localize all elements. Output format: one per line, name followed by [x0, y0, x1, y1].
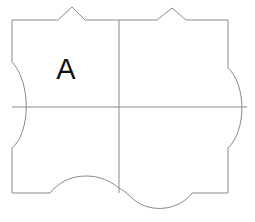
- figure-canvas: A: [0, 0, 255, 222]
- quadrant-bottom-right: [119, 107, 247, 212]
- quadrant-label-a: A: [56, 53, 76, 85]
- quadrant-bottom-left: [12, 107, 119, 207]
- quadrant-top-right: [119, 7, 247, 107]
- tessellation-tile-figure: A: [0, 0, 255, 222]
